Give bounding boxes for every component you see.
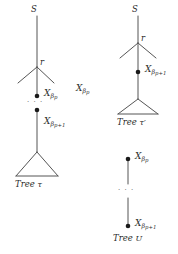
u-node-lower-subsub: p+1 xyxy=(145,224,156,230)
tauprime-node-label: Xβp+1 xyxy=(145,65,166,76)
tauprime-branch-label: r xyxy=(141,34,145,43)
tau-caption-symbol: τ xyxy=(38,180,42,189)
tauprime-caption-word: Tree xyxy=(117,117,137,127)
tauprime-node-subsub: p+1 xyxy=(155,70,166,76)
tau-node-lower-label: Xβp+1 xyxy=(44,117,65,128)
tauprime-branch-left xyxy=(120,43,138,58)
u-caption-word: Tree xyxy=(113,233,133,243)
tau-node-upper-label: Xβp xyxy=(44,89,57,100)
floating-label: Xβp xyxy=(76,84,89,95)
tau-root-label: S xyxy=(31,5,37,14)
floating-label-subsub: p xyxy=(86,89,89,95)
tauprime-caption: Tree τ′ xyxy=(117,118,146,127)
u-node-lower-label: Xβp+1 xyxy=(135,219,156,230)
tauprime-caption-symbol: τ′ xyxy=(140,118,146,127)
tauprime-triangle-right xyxy=(138,99,158,114)
u-node-upper-subsub: p xyxy=(145,157,148,163)
u-caption: Tree U xyxy=(113,234,142,243)
tau-branch-label: r xyxy=(40,58,44,67)
tau-node-upper-subsub: p xyxy=(54,94,57,100)
u-caption-symbol: U xyxy=(136,234,143,243)
tau-ellipsis: · · · xyxy=(27,99,43,106)
tauprime-root-label: S xyxy=(132,5,138,14)
tauprime-node-dot xyxy=(136,70,141,75)
u-ellipsis: · · · xyxy=(118,187,134,194)
tau-node-lower-dot xyxy=(35,108,40,113)
u-node-lower-dot xyxy=(126,224,131,229)
tree-diagram-svg xyxy=(0,0,178,254)
diagram-canvas: S r Xβp · · · Xβp+1 Tree τ Xβp S r Xβp+1… xyxy=(0,0,178,254)
tau-node-lower-subsub: p+1 xyxy=(54,122,65,128)
tau-caption: Tree τ xyxy=(15,180,42,189)
tau-triangle-left xyxy=(16,152,37,176)
u-node-upper-label: Xβp xyxy=(135,152,148,163)
tau-branch-left xyxy=(18,67,37,83)
tauprime-branch-right xyxy=(138,43,156,58)
u-node-upper-dot xyxy=(126,157,131,162)
tau-caption-word: Tree xyxy=(15,179,35,189)
tauprime-triangle-left xyxy=(118,99,138,114)
tau-triangle-right xyxy=(37,152,58,176)
tau-branch-right xyxy=(37,67,54,83)
